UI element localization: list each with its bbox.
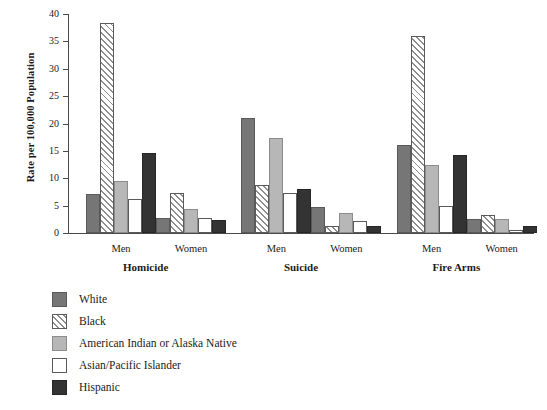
legend-item: Asian/Pacific Islander [52, 354, 382, 376]
bar [184, 209, 198, 233]
x-sex-label: Men [392, 243, 472, 254]
legend-swatch-icon [52, 380, 67, 395]
legend-item: American Indian or Alaska Native [52, 332, 382, 354]
bar-chart-figure: Rate per 100,000 Population 051015202530… [0, 0, 547, 410]
bar [481, 215, 495, 233]
bar [114, 181, 128, 233]
x-category-label: Fire Arms [396, 261, 516, 273]
legend-swatch-icon [52, 314, 67, 329]
y-tick-label-35: 35 [49, 34, 59, 47]
bar [439, 206, 453, 233]
bar [170, 193, 184, 233]
y-tick-label-0: 0 [54, 226, 59, 239]
bar [453, 155, 467, 233]
y-axis-title: Rate per 100,000 Population [25, 3, 36, 233]
x-sex-label: Men [236, 243, 316, 254]
plot-area: 0510152025303540 [68, 14, 534, 233]
bar [311, 207, 325, 233]
bar [509, 230, 523, 233]
bar [255, 185, 269, 233]
bar [523, 226, 537, 233]
bar [128, 199, 142, 233]
legend-item: White [52, 288, 382, 310]
y-tick-20: 20 [63, 124, 68, 125]
y-tick-label-40: 40 [49, 7, 59, 20]
legend-swatch-icon [52, 336, 67, 351]
bar [142, 153, 156, 233]
bar [325, 226, 339, 233]
x-category-label: Suicide [241, 261, 361, 273]
legend-label: Black [79, 315, 106, 327]
legend-item: Black [52, 310, 382, 332]
legend-item: Hispanic [52, 376, 382, 398]
bar [156, 218, 170, 233]
bar [100, 23, 114, 233]
y-tick-label-20: 20 [49, 117, 59, 130]
y-tick-25: 25 [63, 96, 68, 97]
bar [86, 194, 100, 233]
legend-label: Asian/Pacific Islander [79, 359, 181, 371]
legend-swatch-icon [52, 292, 67, 307]
y-tick-label-30: 30 [49, 62, 59, 75]
bar [198, 218, 212, 233]
y-tick-0: 0 [63, 233, 68, 234]
x-sex-label: Women [151, 243, 231, 254]
bar [353, 221, 367, 233]
legend-label: Hispanic [79, 381, 120, 393]
bar [339, 213, 353, 233]
bar [212, 220, 226, 233]
bar [397, 145, 411, 233]
y-tick-label-5: 5 [54, 199, 59, 212]
x-axis-line [68, 233, 534, 234]
x-sex-label: Women [306, 243, 386, 254]
y-tick-30: 30 [63, 69, 68, 70]
bar [367, 226, 381, 233]
y-tick-40: 40 [63, 14, 68, 15]
x-sex-label: Men [81, 243, 161, 254]
y-tick-35: 35 [63, 41, 68, 42]
y-tick-15: 15 [63, 151, 68, 152]
legend-label: White [79, 293, 107, 305]
y-tick-10: 10 [63, 178, 68, 179]
bar [425, 165, 439, 233]
legend: WhiteBlackAmerican Indian or Alaska Nati… [52, 288, 382, 398]
bar [411, 36, 425, 233]
y-tick-label-15: 15 [49, 144, 59, 157]
y-tick-label-25: 25 [49, 89, 59, 102]
bar [297, 189, 311, 233]
bar [283, 193, 297, 234]
bar [467, 219, 481, 233]
y-tick-5: 5 [63, 206, 68, 207]
y-axis-line [68, 14, 69, 233]
bar [241, 118, 255, 233]
x-sex-label: Women [462, 243, 542, 254]
legend-label: American Indian or Alaska Native [79, 337, 237, 349]
bar [269, 138, 283, 233]
legend-swatch-icon [52, 358, 67, 373]
x-category-label: Homicide [86, 261, 206, 273]
bar [495, 219, 509, 233]
y-tick-label-10: 10 [49, 171, 59, 184]
